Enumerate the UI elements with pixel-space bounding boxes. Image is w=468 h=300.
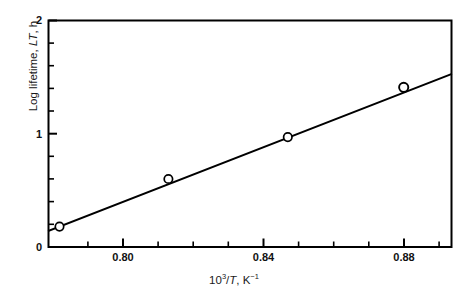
data-point	[284, 133, 292, 141]
x-tick-label-084: 0.84	[234, 251, 294, 263]
plot-frame	[49, 21, 452, 248]
y-axis-label: Log lifetime, LT, h	[27, 0, 39, 161]
x-axis-major-ticks	[123, 239, 404, 248]
x-axis-label: 103/T, K−1	[0, 272, 468, 286]
data-point	[399, 83, 408, 92]
y-axis-label-italic: LT	[27, 34, 39, 47]
chart-page: 0 1 2 0.80 0.84 0.88 Log lifetime, LT, h…	[0, 0, 468, 300]
x-tick-label-080: 0.80	[93, 251, 153, 263]
y-tick-label-0: 0	[16, 241, 42, 253]
x-axis-label-pre: 10	[209, 274, 222, 286]
x-axis-label-sup2: −1	[250, 272, 259, 281]
fit-line	[49, 74, 451, 230]
figure-arrhenius-lifetime-plot: 0 1 2 0.80 0.84 0.88 Log lifetime, LT, h…	[0, 0, 468, 300]
x-axis-label-post: , K	[236, 274, 250, 286]
y-axis-label-post: , h	[27, 21, 39, 34]
data-point	[164, 175, 172, 183]
x-tick-label-088: 0.88	[374, 251, 434, 263]
y-axis-major-ticks	[49, 21, 58, 248]
data-point	[55, 222, 63, 230]
y-axis-label-pre: Log lifetime,	[27, 46, 39, 111]
